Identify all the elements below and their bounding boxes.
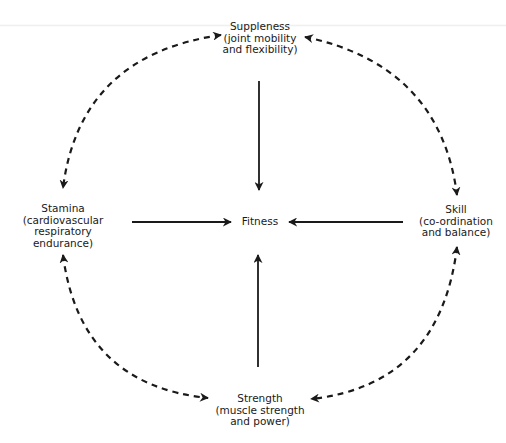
node-desc-line: respiratory: [4, 226, 122, 238]
node-stamina: Stamina (cardiovascular respiratory endu…: [4, 203, 122, 249]
dashed-arc-suppleness-skill: [305, 37, 457, 195]
node-suppleness: Suppleness (joint mobility and flexibili…: [200, 21, 320, 56]
node-title: Skill: [408, 204, 504, 216]
node-desc-line: and flexibility): [200, 44, 320, 56]
node-title: Stamina: [4, 203, 122, 215]
node-title: Suppleness: [200, 21, 320, 33]
dashed-arc-suppleness-stamina: [63, 35, 221, 188]
node-skill: Skill (co-ordination and balance): [408, 204, 504, 239]
node-fitness-center: Fitness: [230, 216, 290, 228]
node-strength: Strength (muscle strength and power): [196, 393, 324, 428]
dashed-arc-skill-strength: [311, 247, 457, 399]
center-label: Fitness: [230, 216, 290, 228]
node-desc-line: endurance): [4, 238, 122, 250]
node-desc-line: and balance): [408, 227, 504, 239]
node-title: Strength: [196, 393, 324, 405]
dashed-arc-stamina-strength: [63, 255, 208, 398]
node-desc-line: and power): [196, 416, 324, 428]
